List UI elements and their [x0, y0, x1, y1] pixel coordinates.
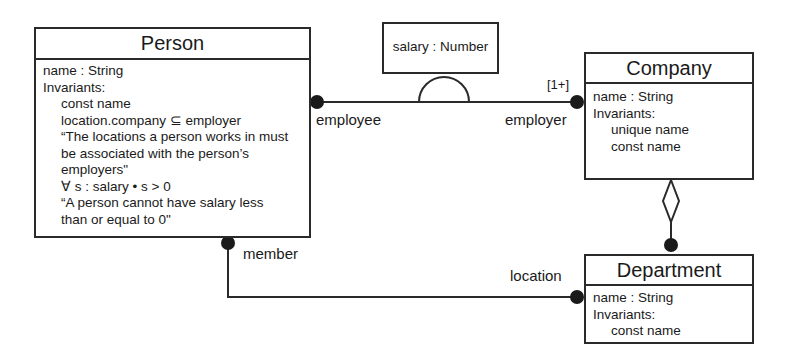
- location-end-dot: [570, 290, 584, 304]
- person-invariant: be associated with the person’s: [43, 146, 309, 163]
- person-invariant: ∀ s : salary • s > 0: [43, 179, 309, 196]
- person-invariant: than or equal to 0": [43, 212, 309, 229]
- employer-multiplicity: [1+]: [547, 77, 569, 92]
- salary-association-class[interactable]: salary : Number: [382, 22, 499, 74]
- employer-role-label: employer: [505, 111, 567, 128]
- salary-attribute: salary : Number: [384, 39, 497, 54]
- department-attribute: name : String: [593, 290, 752, 307]
- department-class[interactable]: Department name : String Invariants: con…: [584, 254, 754, 344]
- aggregation-end-dot: [664, 238, 678, 252]
- class-diagram: Person name : String Invariants: const n…: [0, 0, 792, 360]
- department-invariant: const name: [593, 323, 752, 340]
- member-role-label: member: [243, 245, 298, 262]
- employer-end-dot: [570, 95, 584, 109]
- person-class-name: Person: [36, 29, 309, 60]
- department-class-body: name : String Invariants: const name: [586, 286, 752, 340]
- person-class-body: name : String Invariants: const name loc…: [36, 60, 309, 228]
- aggregation-diamond-icon: [663, 180, 679, 222]
- company-class[interactable]: Company name : String Invariants: unique…: [584, 52, 754, 180]
- location-role-label: location: [510, 267, 562, 284]
- person-invariant: “A person cannot have salary less: [43, 195, 309, 212]
- company-attribute: name : String: [593, 89, 752, 106]
- person-attribute: name : String: [43, 63, 309, 80]
- company-class-body: name : String Invariants: unique name co…: [586, 84, 752, 155]
- company-invariant: unique name: [593, 122, 752, 139]
- department-class-name: Department: [586, 256, 752, 286]
- person-invariant: const name: [43, 96, 309, 113]
- member-end-dot: [221, 236, 235, 250]
- company-invariant: const name: [593, 139, 752, 156]
- person-class[interactable]: Person name : String Invariants: const n…: [34, 27, 311, 238]
- company-invariants-label: Invariants:: [593, 106, 752, 123]
- person-invariants-label: Invariants:: [43, 80, 309, 97]
- department-invariants-label: Invariants:: [593, 307, 752, 324]
- person-invariant: location.company ⊆ employer: [43, 113, 309, 130]
- association-class-arc: [419, 77, 469, 102]
- person-invariant: “The locations a person works in must: [43, 129, 309, 146]
- company-class-name: Company: [586, 54, 752, 84]
- person-invariant: employers": [43, 162, 309, 179]
- employee-role-label: employee: [316, 111, 381, 128]
- employee-end-dot: [310, 95, 324, 109]
